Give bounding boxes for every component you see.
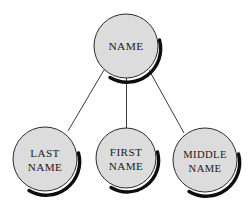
tree-diagram: NAME LAST NAME FIRST NAME MIDDLE NAME bbox=[0, 0, 252, 208]
node-first-name[interactable]: FIRST NAME bbox=[96, 128, 159, 192]
node-first-name-label-line1: FIRST bbox=[110, 146, 142, 158]
edge-group bbox=[68, 70, 184, 133]
node-middle-name-label-line2: NAME bbox=[189, 163, 222, 174]
edge-name-to-last-name bbox=[68, 70, 104, 131]
edge-name-to-middle-name bbox=[149, 70, 184, 133]
node-first-name-label-line2: NAME bbox=[109, 160, 144, 172]
node-last-name[interactable]: LAST NAME bbox=[13, 127, 80, 195]
node-middle-name-label-line1: MIDDLE bbox=[183, 149, 227, 160]
diagram-canvas: NAME LAST NAME FIRST NAME MIDDLE NAME bbox=[0, 0, 252, 208]
node-middle-name-circle[interactable] bbox=[173, 128, 237, 192]
node-last-name-label-line1: LAST bbox=[30, 147, 60, 159]
node-name-label: NAME bbox=[108, 40, 143, 52]
node-last-name-label-line2: NAME bbox=[28, 161, 63, 173]
node-first-name-circle[interactable] bbox=[96, 128, 156, 188]
node-name[interactable]: NAME bbox=[94, 14, 161, 82]
node-last-name-circle[interactable] bbox=[13, 127, 77, 191]
node-middle-name[interactable]: MIDDLE NAME bbox=[173, 128, 240, 196]
